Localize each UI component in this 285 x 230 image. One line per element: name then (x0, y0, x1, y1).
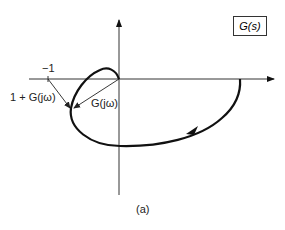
transfer-function-label: G(s) (239, 20, 260, 32)
one-plus-g-label: 1 + G(jω) (10, 91, 56, 103)
transfer-function-box: G(s) (233, 16, 267, 36)
caption: (a) (136, 203, 149, 215)
g-label: G(jω) (91, 97, 118, 109)
minus-one-label: −1 (42, 62, 55, 74)
